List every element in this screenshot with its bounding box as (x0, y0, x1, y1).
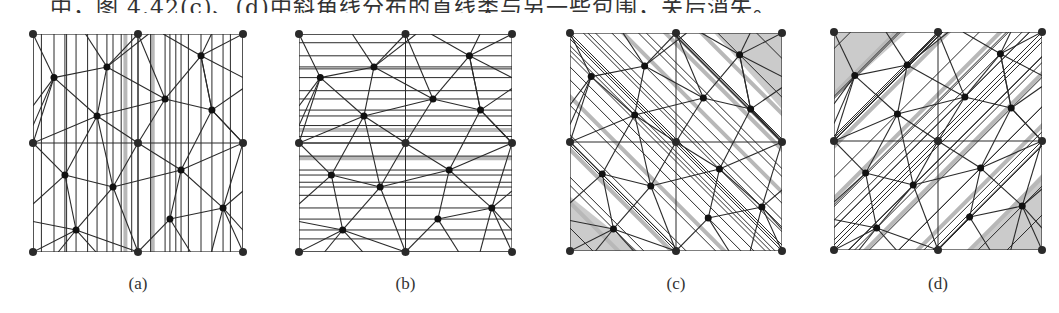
mesh-vertex (997, 50, 1004, 57)
mesh-vertex (873, 224, 880, 231)
grid-node (934, 246, 942, 254)
mesh-vertex (851, 72, 858, 79)
grid-node (1038, 137, 1046, 145)
mesh-vertex (1019, 202, 1026, 209)
grid-node (830, 28, 838, 36)
grid-node (934, 137, 942, 145)
mesh-vertex (977, 165, 984, 172)
grid-node (934, 28, 942, 36)
panel-label-d: (d) (908, 274, 968, 294)
grid-node (830, 137, 838, 145)
mesh-diagram-d (0, 0, 1059, 313)
grid-node (1038, 28, 1046, 36)
mesh-vertex (894, 110, 901, 117)
mesh-vertex (862, 170, 869, 177)
mesh-vertex (961, 93, 968, 100)
mesh-vertex (1008, 105, 1015, 112)
mesh-vertex (910, 182, 917, 189)
grid-node (830, 246, 838, 254)
mesh-vertex (904, 61, 911, 68)
grid-node (1038, 246, 1046, 254)
mesh-vertex (966, 214, 973, 221)
